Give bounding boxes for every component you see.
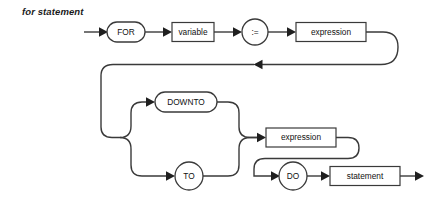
node-expression-mid: expression (266, 128, 336, 147)
node-to-label: TO (183, 171, 195, 181)
node-variable: variable (172, 23, 214, 42)
railroad-diagram-page: for statement FOR variable := (0, 0, 433, 205)
node-expression-top: expression (296, 23, 366, 42)
node-for-label: FOR (117, 27, 135, 37)
arrow-into-variable-icon (163, 27, 172, 37)
arrow-exit-icon (415, 171, 424, 181)
node-expression-mid-label: expression (281, 132, 322, 142)
branch-upper-out (217, 102, 261, 138)
railroad-diagram-canvas: FOR variable := expression (0, 0, 433, 205)
node-assign-label: := (251, 27, 258, 37)
node-for: FOR (107, 22, 145, 42)
node-assign: := (242, 19, 268, 45)
branch-lower-in (120, 138, 170, 177)
arrow-into-downto-icon (146, 97, 155, 107)
arrow-into-statement-icon (321, 171, 330, 181)
arrow-into-expression-top-icon (287, 27, 296, 37)
branch-upper-in (120, 102, 150, 138)
branch-lower-out (203, 138, 261, 177)
node-downto: DOWNTO (155, 92, 217, 112)
node-variable-label: variable (178, 27, 207, 37)
arrow-into-to-icon (166, 171, 175, 181)
arrow-into-expression-mid-icon (257, 133, 266, 143)
node-statement: statement (330, 167, 400, 186)
arrow-return-left-icon (254, 60, 263, 69)
node-statement-label: statement (347, 171, 384, 181)
arrow-into-assign-icon (233, 27, 242, 37)
node-downto-label: DOWNTO (167, 97, 205, 107)
node-to: TO (175, 162, 203, 190)
node-do: DO (279, 162, 307, 190)
node-do-label: DO (287, 171, 300, 181)
node-expression-top-label: expression (311, 27, 352, 37)
